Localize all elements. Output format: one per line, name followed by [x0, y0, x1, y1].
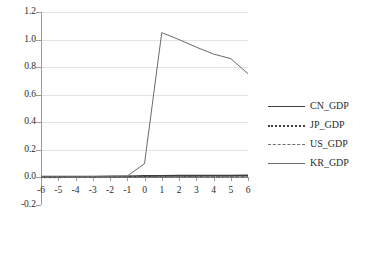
- y-axis-tick: [36, 205, 41, 206]
- series-line-kr_gdp: [41, 33, 248, 177]
- legend-swatch-icon: [268, 158, 305, 168]
- legend-item-label: US_GDP: [305, 139, 348, 149]
- y-axis-tick-label: 1.0: [2, 35, 36, 45]
- y-axis-tick-label: -0.2: [2, 200, 36, 210]
- legend-item-label: JP_GDP: [305, 120, 344, 130]
- y-axis-tick-label: 0.2: [2, 145, 36, 155]
- x-axis-tick: [248, 177, 249, 181]
- y-axis-tick-label: 0.8: [2, 62, 36, 72]
- legend-item-label: KR_GDP: [305, 158, 349, 168]
- y-axis-tick-label: 0.0: [2, 172, 36, 182]
- legend-item-jp_gdp[interactable]: JP_GDP: [268, 115, 384, 134]
- legend-item-label: CN_GDP: [305, 101, 349, 111]
- data-series-group: [41, 12, 248, 205]
- y-axis-tick-label: 1.2: [2, 7, 36, 17]
- y-axis-labels: 1.21.00.80.60.40.20.0-0.2: [0, 0, 36, 255]
- chart-legend: CN_GDPJP_GDPUS_GDPKR_GDP: [268, 96, 384, 172]
- legend-item-us_gdp[interactable]: US_GDP: [268, 134, 384, 153]
- y-axis-tick-label: 0.4: [2, 117, 36, 127]
- legend-swatch-icon: [268, 139, 305, 149]
- legend-swatch-icon: [268, 120, 305, 130]
- chart-figure: 1.21.00.80.60.40.20.0-0.2 -6-5-4-3-2-101…: [0, 0, 384, 255]
- legend-item-kr_gdp[interactable]: KR_GDP: [268, 153, 384, 172]
- y-axis-tick-label: 0.6: [2, 90, 36, 100]
- legend-swatch-icon: [268, 101, 305, 111]
- legend-item-cn_gdp[interactable]: CN_GDP: [268, 96, 384, 115]
